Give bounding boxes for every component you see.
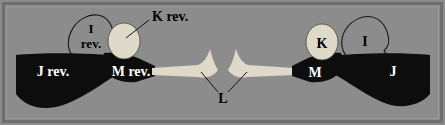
figure-container: I rev. K rev. J rev. M rev. L K I M J xyxy=(0,0,445,125)
label-right-m: M xyxy=(308,65,321,80)
label-right-j: J xyxy=(390,64,397,79)
label-right-i: I xyxy=(362,34,367,49)
label-left-k-rev: K rev. xyxy=(152,9,188,24)
schematic-figure: I rev. K rev. J rev. M rev. L K I M J xyxy=(0,0,445,125)
region-left-k-rev xyxy=(108,23,140,59)
label-center-l: L xyxy=(218,91,227,106)
label-left-m-rev: M rev. xyxy=(112,64,151,79)
label-left-j-rev: J rev. xyxy=(37,64,69,79)
label-left-i-rev-line1: I xyxy=(88,21,93,36)
label-left-i-rev-line2: rev. xyxy=(81,36,101,51)
label-right-k: K xyxy=(317,36,328,51)
